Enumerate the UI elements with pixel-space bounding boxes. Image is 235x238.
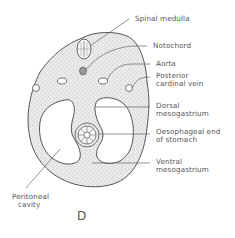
- posterior-cardinal-vein-left: [33, 85, 40, 92]
- label-notochord: Notochord: [153, 42, 191, 50]
- label-dorsal-mesogastrium-line2: mesogastrium: [156, 110, 209, 118]
- figure-caption: D: [77, 209, 86, 223]
- notochord: [80, 67, 87, 75]
- aorta-left: [58, 78, 67, 84]
- label-aorta: Aorta: [156, 60, 176, 68]
- spinal-medulla: [77, 39, 91, 59]
- label-ventral-mesogastrium-line2: mesogastrium: [156, 166, 209, 174]
- oesophageal-end-of-stomach: [75, 123, 99, 147]
- posterior-cardinal-vein-right: [126, 85, 133, 92]
- label-peritoneal-cavity-line2: cavity: [18, 201, 40, 209]
- label-posterior-cardinal-vein-line2: cardinal vein: [156, 80, 204, 88]
- label-oesophageal-end-line2: of stomach: [156, 136, 197, 144]
- label-spinal-medulla: Spinal medulla: [135, 15, 190, 23]
- aorta-right: [99, 78, 108, 84]
